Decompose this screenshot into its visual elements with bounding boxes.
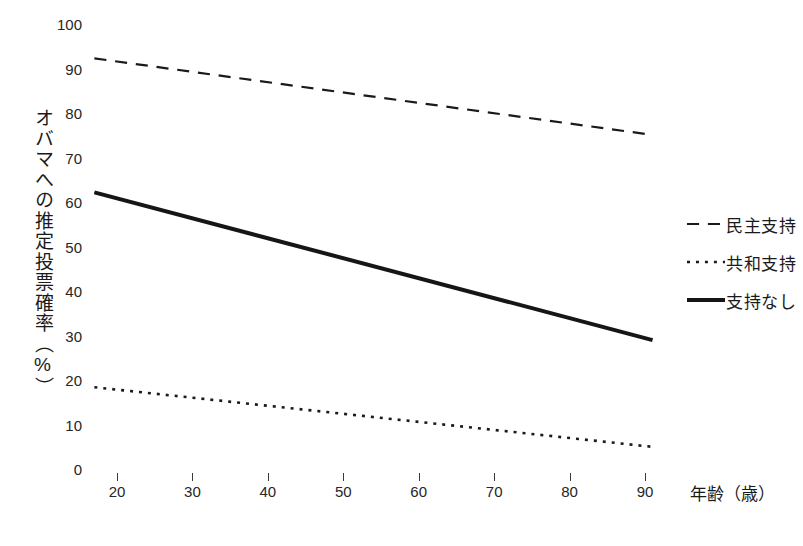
- chart-legend: 民主支持共和支持支持なし: [686, 205, 803, 319]
- x-tick-label: 90: [625, 484, 665, 499]
- legend-item[interactable]: 民主支持: [686, 205, 803, 243]
- series-line: [94, 387, 652, 447]
- y-tick-label: 70: [42, 151, 82, 166]
- legend-swatch-dashed-icon: [686, 217, 726, 231]
- y-tick-label: 100: [42, 17, 82, 32]
- legend-label: 支持なし: [726, 288, 796, 313]
- x-tick-label: 20: [97, 484, 137, 499]
- x-tick-mark: [192, 473, 193, 481]
- y-tick-label: 30: [42, 329, 82, 344]
- legend-label: 民主支持: [726, 212, 796, 237]
- y-tick-label: 50: [42, 240, 82, 255]
- chart-figure: オバマへの推定投票確率（%） 0102030405060708090100 20…: [0, 0, 803, 546]
- x-tick-mark: [117, 473, 118, 481]
- x-tick-label: 80: [550, 484, 590, 499]
- x-tick-mark: [419, 473, 420, 481]
- legend-label: 共和支持: [726, 250, 796, 275]
- series-line: [94, 192, 652, 340]
- legend-item[interactable]: 共和支持: [686, 243, 803, 281]
- x-tick-label: 70: [474, 484, 514, 499]
- x-tick-mark: [645, 473, 646, 481]
- y-tick-label: 90: [42, 62, 82, 77]
- y-tick-label: 10: [42, 418, 82, 433]
- y-tick-label: 80: [42, 106, 82, 121]
- y-tick-label: 40: [42, 284, 82, 299]
- y-tick-label: 20: [42, 373, 82, 388]
- x-tick-label: 60: [399, 484, 439, 499]
- x-tick-label: 50: [323, 484, 363, 499]
- x-tick-mark: [268, 473, 269, 481]
- x-tick-mark: [494, 473, 495, 481]
- plot-area: [0, 0, 803, 546]
- y-tick-label: 60: [42, 195, 82, 210]
- series-line: [94, 58, 652, 135]
- x-tick-mark: [570, 473, 571, 481]
- legend-swatch-solid-icon: [686, 293, 726, 307]
- legend-swatch-dotted-icon: [686, 255, 726, 269]
- x-tick-label: 30: [172, 484, 212, 499]
- legend-item[interactable]: 支持なし: [686, 281, 803, 319]
- x-tick-label: 40: [248, 484, 288, 499]
- x-tick-mark: [343, 473, 344, 481]
- y-tick-label: 0: [42, 462, 82, 477]
- x-axis-title: 年齢（歳）: [690, 480, 775, 505]
